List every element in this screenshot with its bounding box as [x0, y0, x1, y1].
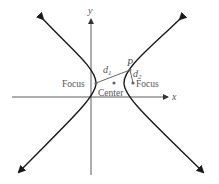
hyperbola-right-branch: [124, 19, 203, 172]
left-focus-point: [94, 81, 97, 84]
center-label: Center: [98, 88, 124, 98]
point-p: [129, 69, 132, 72]
point-p-label: P: [126, 57, 133, 68]
x-axis-label: x: [171, 91, 177, 102]
right-focus-point: [131, 81, 134, 84]
left-focus-label: Focus: [62, 79, 85, 89]
d2-label: d2: [133, 68, 142, 81]
hyperbola-left-branch: [19, 19, 96, 172]
d1-label: d1: [103, 64, 112, 77]
center-point: [112, 81, 115, 84]
y-axis-label: y: [87, 5, 93, 16]
hyperbola-diagram: x y Focus Focus Center P d1 d2: [0, 0, 219, 184]
